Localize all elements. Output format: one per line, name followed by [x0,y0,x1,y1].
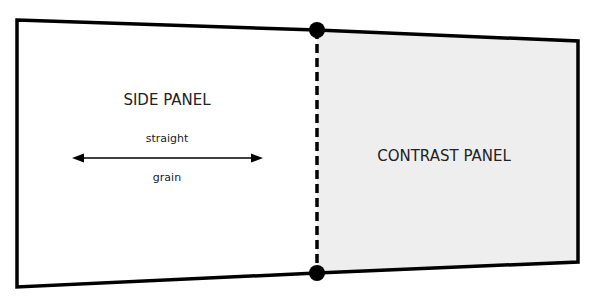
grain-label-top: straight [146,132,189,145]
seam-top-dot-icon [309,22,325,38]
grain-label-bottom: grain [153,171,181,184]
contrast-panel-label: CONTRAST PANEL [377,147,511,165]
panel-diagram: SIDE PANEL straight grain CONTRAST PANEL [0,0,598,300]
side-panel [17,20,317,287]
side-panel-label: SIDE PANEL [123,91,211,109]
seam-bottom-dot-icon [309,265,325,281]
